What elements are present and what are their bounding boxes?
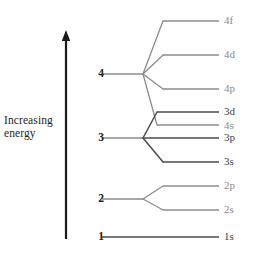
branch-3-to-3s: [143, 138, 163, 162]
orbital-level-lines: [102, 21, 219, 237]
orbital-label-4f: 4f: [224, 14, 233, 26]
orbital-label-2p: 2p: [224, 179, 235, 191]
axis-caption-line2: energy: [4, 127, 62, 140]
orbital-label-4s: 4s: [224, 119, 234, 131]
branch-2-to-2p: [143, 186, 163, 199]
shell-label-4: 4: [88, 67, 104, 79]
energy-level-diagram: Increasing energy 4321 4f4d4p3d4s3p3s2p2…: [0, 0, 253, 257]
orbital-label-3d: 3d: [224, 105, 235, 117]
shell-label-2: 2: [88, 192, 104, 204]
orbital-label-2s: 2s: [224, 203, 234, 215]
orbital-label-4p: 4p: [224, 82, 235, 94]
axis-caption: Increasing energy: [4, 114, 62, 140]
orbital-label-4d: 4d: [224, 48, 235, 60]
axis-arrowhead: [62, 30, 70, 41]
orbital-label-3p: 3p: [224, 131, 235, 143]
branch-3-to-3d: [143, 112, 157, 138]
branch-4-to-4f: [143, 21, 163, 74]
branch-2-to-2s: [143, 199, 163, 210]
increasing-energy-axis: [62, 30, 70, 239]
orbital-label-3s: 3s: [224, 155, 234, 167]
branch-connectors: [102, 21, 163, 210]
axis-caption-line1: Increasing: [4, 114, 62, 127]
shell-label-3: 3: [88, 131, 104, 143]
orbital-label-1s: 1s: [224, 230, 234, 242]
shell-label-1: 1: [88, 230, 104, 242]
